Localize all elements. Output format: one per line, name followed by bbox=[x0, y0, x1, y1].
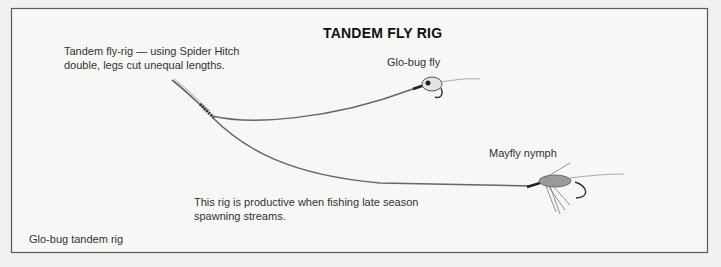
rig-description: Tandem fly-rig — using Spider Hitch doub… bbox=[64, 44, 239, 72]
productivity-note: This rig is productive when fishing late… bbox=[194, 195, 418, 223]
upper-fly-label: Glo-bug fly bbox=[387, 55, 440, 69]
lower-fly-label: Mayfly nymph bbox=[489, 146, 557, 160]
caption: Glo-bug tandem rig bbox=[29, 232, 123, 246]
diagram-title: TANDEM FLY RIG bbox=[323, 25, 442, 41]
